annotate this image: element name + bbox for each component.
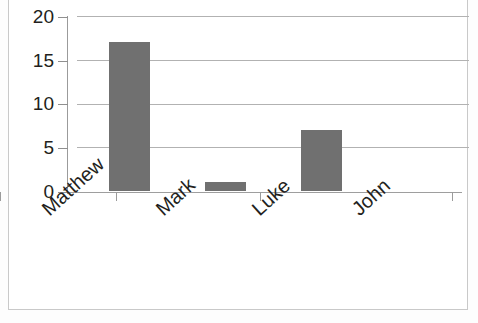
x-axis-label-luke: Luke	[248, 175, 294, 219]
x-tick-4	[452, 192, 453, 201]
x-axis-label-mark: Mark	[152, 174, 198, 219]
scanned-page-background: 20 15 10 5 0 Matthew Mark Luke John	[0, 0, 478, 323]
x-tick-1	[116, 192, 117, 201]
x-tick-3	[0, 192, 1, 201]
x-axis-category-layer: Matthew Mark Luke John	[0, 0, 478, 323]
x-axis-label-john: John	[348, 175, 394, 219]
x-axis-label-matthew: Matthew	[38, 153, 108, 218]
